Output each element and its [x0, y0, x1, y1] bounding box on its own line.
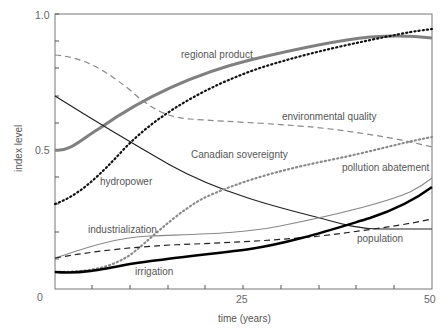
label-regional-product: regional product: [181, 49, 253, 60]
label-industrialization: industrialization: [88, 224, 157, 235]
series-environmental-quality: [55, 55, 432, 147]
x-axis-ticks: [92, 285, 394, 289]
y-axis-title: index level: [13, 125, 24, 172]
y-tick-1-0: 1.0: [35, 9, 50, 21]
y-axis-ticks: [55, 14, 59, 259]
label-irrigation: irrigation: [135, 266, 173, 277]
label-population: population: [357, 233, 403, 244]
x-tick-50: 50: [424, 293, 436, 305]
y-tick-0-5: 0.5: [35, 144, 50, 156]
label-environmental-quality: environmental quality: [282, 111, 377, 122]
x-tick-25: 25: [236, 293, 248, 305]
label-pollution-abatement: pollution abatement: [342, 162, 430, 173]
label-hydropower: hydropower: [100, 176, 153, 187]
line-chart: 1.0 0.5 0 25 50 time (years) index level…: [0, 0, 444, 333]
series-industrialization: [55, 178, 432, 258]
x-axis-title: time (years): [218, 313, 271, 324]
x-tick-0: 0: [37, 291, 43, 303]
label-canadian-sovereignty: Canadian sovereignty: [191, 149, 288, 160]
